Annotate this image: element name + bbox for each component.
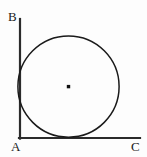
geometry-figure: B A C bbox=[0, 0, 147, 157]
vertex-label-c: C bbox=[131, 140, 140, 153]
vertex-label-b: B bbox=[8, 10, 17, 23]
figure-background bbox=[0, 0, 147, 157]
circle-center-dot bbox=[67, 85, 70, 88]
vertex-label-a: A bbox=[11, 140, 20, 153]
figure-canvas bbox=[0, 0, 147, 157]
